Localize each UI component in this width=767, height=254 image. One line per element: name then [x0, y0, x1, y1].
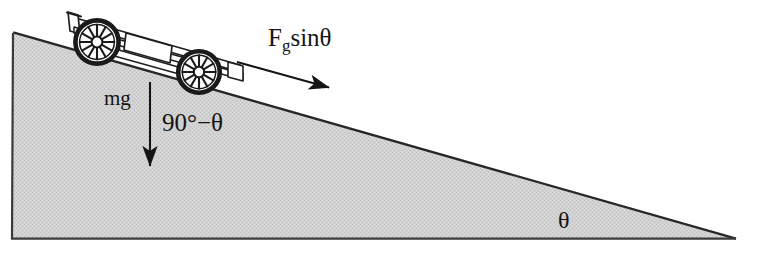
weight-label: mg	[104, 88, 131, 109]
force-component-label: Fgsinθ	[268, 25, 332, 54]
complement-angle-label: 90°−θ	[162, 110, 223, 135]
force-symbol-base: F	[268, 24, 282, 51]
fg-sin-theta-arrow	[237, 62, 329, 88]
inclined-plane-diagram: Fgsinθ mg 90°−θ θ	[0, 0, 767, 254]
vector-layer	[0, 0, 767, 254]
force-symbol-suffix: sinθ	[290, 24, 331, 51]
incline-angle-label: θ	[558, 208, 570, 232]
